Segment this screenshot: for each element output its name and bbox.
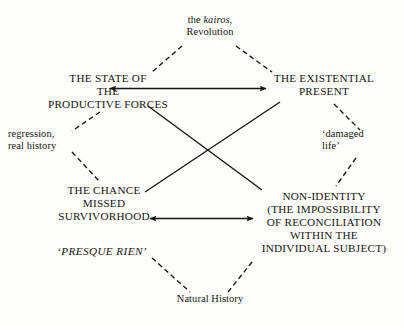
node-state-of-productive-forces: THE STATE OF THE PRODUCTIVE FORCES (16, 72, 200, 111)
node-non-identity: NON-IDENTITY (THE IMPOSSIBILITY OF RECON… (244, 190, 404, 255)
edge-presque-to-natural (152, 258, 190, 292)
node-nonidentity-line5: INDIVIDUAL SUBJECT) (244, 242, 404, 255)
node-existential-present: THE EXISTENTIAL PRESENT (248, 72, 400, 98)
edge-natural-to-nonidentity (228, 262, 252, 292)
node-damaged-line2: life’ (322, 140, 400, 152)
node-survivorhood: SURVIVORHOOD (42, 210, 166, 223)
edge-kairos-to-existential (236, 46, 272, 72)
node-chance-line1: THE CHANCE (38, 184, 170, 197)
edge-damaged-to-nonidentity (336, 158, 356, 186)
node-regression-real-history: regression, real history (8, 128, 112, 153)
node-natural-history: Natural History (150, 293, 270, 305)
node-state-line2: THE (16, 85, 200, 98)
node-damaged-life: ‘damaged life’ (322, 128, 400, 153)
node-kairos: the kairos, Revolution (150, 14, 270, 39)
node-damaged-line1: ‘damaged (322, 128, 400, 140)
edge-existential-to-chance-diagonal (145, 102, 280, 192)
node-kairos-line2: Revolution (150, 26, 270, 38)
edge-existential-to-damaged (334, 104, 360, 130)
node-state-line1: THE STATE OF (16, 72, 200, 85)
node-nonidentity-line3: OF RECONCILIATION (244, 216, 404, 229)
node-chance-missed: THE CHANCE MISSED (38, 184, 170, 210)
node-regression-line2: real history (8, 140, 112, 152)
node-state-line3: PRODUCTIVE FORCES (16, 98, 200, 111)
node-nonidentity-line1: NON-IDENTITY (244, 190, 404, 203)
edge-layer (0, 0, 404, 326)
node-nonidentity-line4: WITHIN THE (244, 229, 404, 242)
edge-regression-to-chance (72, 152, 100, 182)
node-nonidentity-line2: (THE IMPOSSIBILITY (244, 203, 404, 216)
edge-state-to-nonidentity-diagonal (148, 106, 262, 190)
diagram-figure: the kairos, Revolution THE STATE OF THE … (0, 0, 404, 326)
edge-kairos-to-state (152, 46, 182, 72)
node-regression-line1: regression, (8, 128, 112, 140)
node-kairos-line1: the kairos, (150, 14, 270, 26)
node-existential-line2: PRESENT (248, 85, 400, 98)
node-presque-rien: ‘PRESQUE RIEN’ (40, 245, 164, 258)
node-existential-line1: THE EXISTENTIAL (248, 72, 400, 85)
node-chance-line2: MISSED (38, 197, 170, 210)
